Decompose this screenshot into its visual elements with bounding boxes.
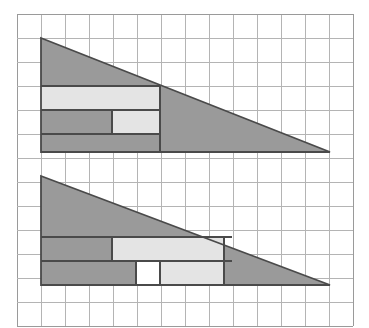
grid-triangles-figure <box>0 0 369 328</box>
bottom-light-block <box>160 261 224 285</box>
bottom-white-notch <box>136 261 160 285</box>
bottom-triangle-white-regions <box>136 261 160 285</box>
top-light-band <box>41 86 160 110</box>
top-light-block <box>112 110 160 134</box>
bottom-light-band <box>112 237 224 261</box>
figure-root <box>0 0 369 328</box>
